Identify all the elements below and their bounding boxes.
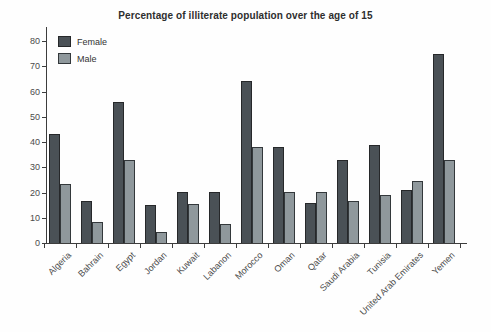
bar-female-qatar: [305, 203, 316, 243]
bar-male-tunisia: [380, 195, 391, 243]
bar-female-algeria: [49, 134, 60, 243]
bar-male-yemen: [444, 160, 455, 243]
y-axis-line: [46, 27, 47, 244]
x-axis-tick: [428, 244, 429, 248]
y-axis-tick: [42, 218, 46, 219]
x-axis-tick: [204, 244, 205, 248]
x-axis-tick: [396, 244, 397, 248]
bar-female-labanon: [209, 192, 220, 243]
y-axis-label: 30: [14, 162, 40, 172]
bar-male-morocco: [252, 147, 263, 243]
y-axis-label: 50: [14, 112, 40, 122]
bar-female-jordan: [145, 205, 156, 243]
x-axis-tick: [332, 244, 333, 248]
bar-male-jordan: [156, 232, 167, 243]
x-axis-tick: [236, 244, 237, 248]
bar-male-kuwait: [188, 204, 199, 243]
bar-female-egypt: [113, 102, 124, 243]
bar-male-oman: [284, 192, 295, 243]
x-axis-tick: [44, 244, 45, 248]
x-axis-tick: [364, 244, 365, 248]
x-axis-tick: [140, 244, 141, 248]
x-axis-tick: [268, 244, 269, 248]
y-axis-tick: [42, 92, 46, 93]
y-axis-tick: [42, 41, 46, 42]
legend-item-female: Female: [58, 33, 107, 50]
y-axis-tick: [42, 117, 46, 118]
bar-male-labanon: [220, 224, 231, 243]
bar-male-egypt: [124, 160, 135, 243]
bar-male-saudi-arabia: [348, 201, 359, 243]
x-axis-tick: [172, 244, 173, 248]
y-axis-tick: [42, 193, 46, 194]
x-axis-label: Oman: [273, 250, 297, 274]
bar-female-united-arab-emirates: [401, 190, 412, 243]
bar-female-yemen: [433, 54, 444, 243]
bar-female-morocco: [241, 81, 252, 243]
bar-male-united-arab-emirates: [412, 181, 423, 243]
bar-male-qatar: [316, 192, 327, 243]
x-axis-label: Labanon: [201, 250, 233, 282]
legend-item-male: Male: [58, 50, 107, 67]
y-axis-tick: [42, 167, 46, 168]
y-axis-label: 0: [14, 238, 40, 248]
x-axis-label: Jordan: [143, 250, 170, 277]
bar-female-saudi-arabia: [337, 160, 348, 243]
female-swatch-icon: [58, 36, 71, 47]
x-axis-tick: [460, 244, 461, 248]
bar-male-bahrain: [92, 222, 103, 243]
x-axis-tick: [300, 244, 301, 248]
legend-label-female: Female: [77, 37, 107, 47]
x-axis-label: Morocco: [234, 250, 265, 281]
bar-male-algeria: [60, 184, 71, 243]
x-axis-label: Egypt: [114, 250, 137, 273]
x-axis-label: Tunisia: [366, 250, 393, 277]
x-axis-label: United Arab Emirates: [358, 250, 425, 317]
bar-female-bahrain: [81, 201, 92, 243]
x-axis-label: Algeria: [46, 250, 73, 277]
legend: Female Male: [58, 33, 107, 67]
bar-female-tunisia: [369, 145, 380, 243]
y-axis-tick: [42, 142, 46, 143]
x-axis-label: Kuwait: [175, 250, 201, 276]
x-axis-label: Qatar: [306, 250, 329, 273]
y-axis-label: 10: [14, 213, 40, 223]
x-axis-label: Bahrain: [76, 250, 105, 279]
bar-female-kuwait: [177, 192, 188, 243]
bar-chart: Percentage of illiterate population over…: [0, 0, 491, 332]
y-axis-label: 20: [14, 188, 40, 198]
y-axis-label: 80: [14, 36, 40, 46]
x-axis-tick: [108, 244, 109, 248]
y-axis-label: 70: [14, 61, 40, 71]
x-axis-label: Yemen: [430, 250, 457, 277]
y-axis-tick: [42, 66, 46, 67]
male-swatch-icon: [58, 53, 71, 64]
bar-female-oman: [273, 147, 284, 243]
x-axis-tick: [76, 244, 77, 248]
x-axis-line: [46, 243, 467, 244]
chart-title: Percentage of illiterate population over…: [0, 10, 491, 21]
y-axis-label: 60: [14, 87, 40, 97]
y-axis-label: 40: [14, 137, 40, 147]
legend-label-male: Male: [77, 54, 97, 64]
